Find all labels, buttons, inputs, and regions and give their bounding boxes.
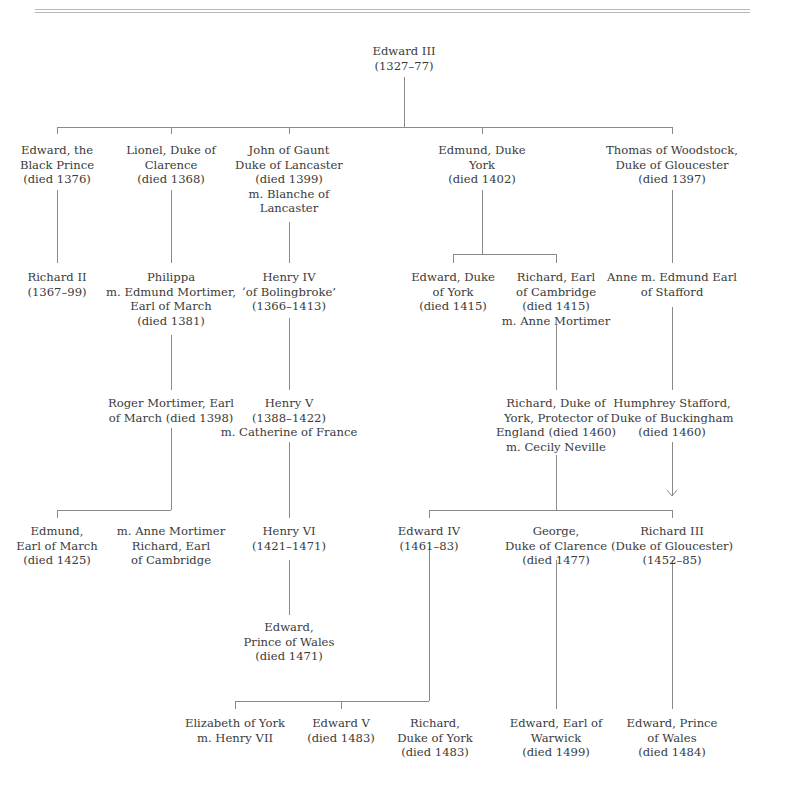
dates: (died 1499) — [510, 745, 603, 760]
dates: (died 1415) — [502, 299, 610, 314]
name: Richard, — [397, 716, 472, 731]
spouse: m. Edmund Mortimer, — [106, 285, 236, 300]
person-edward-iii: Edward III (1327–77) — [372, 44, 435, 73]
name: m. Anne Mortimer — [117, 524, 225, 539]
name: Richard II — [27, 270, 86, 285]
spouse: m. Anne Mortimer — [502, 314, 610, 329]
name: Thomas of Woodstock, — [606, 143, 738, 158]
name-cont: of March (died 1398) — [108, 411, 234, 426]
spouse: m. Catherine of France — [221, 425, 358, 440]
spouse: m. Blanche of — [235, 187, 343, 202]
name-cont: of Stafford — [607, 285, 737, 300]
name: Edward, — [244, 620, 335, 635]
spouse-cont: Lancaster — [235, 201, 343, 216]
dates: (died 1402) — [438, 172, 525, 187]
title: Earl of March — [16, 539, 98, 554]
name-cont: of York — [411, 285, 495, 300]
name-cont: York — [438, 158, 525, 173]
person-black-prince: Edward, the Black Prince (died 1376) — [20, 143, 94, 187]
person-george-clarence: George, Duke of Clarence (died 1477) — [505, 524, 607, 568]
title: (Duke of Gloucester) — [611, 539, 733, 554]
name-cont: of Cambridge — [502, 285, 610, 300]
dates: (died 1397) — [606, 172, 738, 187]
name: Henry IV — [242, 270, 336, 285]
person-henry-iv: Henry IV ‘of Bolingbroke’ (1366–1413) — [242, 270, 336, 314]
name: Edward, Prince — [627, 716, 718, 731]
name: Elizabeth of York — [185, 716, 285, 731]
dates: (1366–1413) — [242, 299, 336, 314]
dates: (1327–77) — [372, 59, 435, 74]
dates: (died 1376) — [20, 172, 94, 187]
person-richard-earl-cambridge: Richard, Earl of Cambridge (died 1415) m… — [502, 270, 610, 328]
person-john-of-gaunt: John of Gaunt Duke of Lancaster (died 13… — [235, 143, 343, 216]
dates: (died 1368) — [126, 172, 215, 187]
person-edward-duke-of-york: Edward, Duke of York (died 1415) — [411, 270, 495, 314]
name: George, — [505, 524, 607, 539]
spouse-cont: Earl of March — [106, 299, 236, 314]
name: John of Gaunt — [235, 143, 343, 158]
name: Richard, Duke of — [496, 396, 616, 411]
dates: (1388–1422) — [221, 411, 358, 426]
person-anne-stafford: Anne m. Edmund Earl of Stafford — [607, 270, 737, 299]
name: Edmund, Duke — [438, 143, 525, 158]
dates: (1461–83) — [398, 539, 460, 554]
person-roger-mortimer: Roger Mortimer, Earl of March (died 1398… — [108, 396, 234, 425]
person-richard-ii: Richard II (1367–99) — [27, 270, 86, 299]
dates: (died 1483) — [397, 745, 472, 760]
person-edward-earl-of-warwick: Edward, Earl of Warwick (died 1499) — [510, 716, 603, 760]
name: Humphrey Stafford, — [611, 396, 734, 411]
name-cont: Clarence — [126, 158, 215, 173]
name: Edward V — [307, 716, 375, 731]
dates: (died 1471) — [244, 649, 335, 664]
person-elizabeth-of-york: Elizabeth of York m. Henry VII — [185, 716, 285, 745]
name: Lionel, Duke of — [126, 143, 215, 158]
person-edmund-york: Edmund, Duke York (died 1402) — [438, 143, 525, 187]
person-richard-duke-of-york: Richard, Duke of York, Protector of Engl… — [496, 396, 616, 454]
name: Roger Mortimer, Earl — [108, 396, 234, 411]
dates: (died 1381) — [106, 314, 236, 329]
name: Anne m. Edmund Earl — [607, 270, 737, 285]
person-henry-v: Henry V (1388–1422) m. Catherine of Fran… — [221, 396, 358, 440]
person-thomas-woodstock: Thomas of Woodstock, Duke of Gloucester … — [606, 143, 738, 187]
title: Duke of Clarence — [505, 539, 607, 554]
name: Edward, Duke — [411, 270, 495, 285]
spouse: m. Cecily Neville — [496, 440, 616, 455]
name: Edward IV — [398, 524, 460, 539]
person-edward-prince-of-wales-1471: Edward, Prince of Wales (died 1471) — [244, 620, 335, 664]
name-cont: Black Prince — [20, 158, 94, 173]
name: Philippa — [106, 270, 236, 285]
name: Edmund, — [16, 524, 98, 539]
person-edward-iv: Edward IV (1461–83) — [398, 524, 460, 553]
title: Prince of Wales — [244, 635, 335, 650]
dates: (died 1425) — [16, 553, 98, 568]
name: Edward III — [372, 44, 435, 59]
dates: (1421–1471) — [252, 539, 326, 554]
person-richard-iii: Richard III (Duke of Gloucester) (1452–8… — [611, 524, 733, 568]
name-cont: of Wales — [627, 731, 718, 746]
person-humphrey-stafford: Humphrey Stafford, Duke of Buckingham (d… — [611, 396, 734, 440]
dates: (died 1477) — [505, 553, 607, 568]
person-anne-mortimer: m. Anne Mortimer Richard, Earl of Cambri… — [117, 524, 225, 568]
title: Duke of Buckingham — [611, 411, 734, 426]
name-cont: Warwick — [510, 731, 603, 746]
spouse-cont: of Cambridge — [117, 553, 225, 568]
person-philippa: Philippa m. Edmund Mortimer, Earl of Mar… — [106, 270, 236, 328]
person-edmund-earl-of-march: Edmund, Earl of March (died 1425) — [16, 524, 98, 568]
person-richard-duke-of-york-1483: Richard, Duke of York (died 1483) — [397, 716, 472, 760]
name: Henry V — [221, 396, 358, 411]
person-lionel: Lionel, Duke of Clarence (died 1368) — [126, 143, 215, 187]
dates: (died 1483) — [307, 731, 375, 746]
dates: (died 1484) — [627, 745, 718, 760]
dates: (1367–99) — [27, 285, 86, 300]
title: Duke of York — [397, 731, 472, 746]
dates: (1452–85) — [611, 553, 733, 568]
person-henry-vi: Henry VI (1421–1471) — [252, 524, 326, 553]
spouse: m. Henry VII — [185, 731, 285, 746]
name: Henry VI — [252, 524, 326, 539]
epithet: ‘of Bolingbroke’ — [242, 285, 336, 300]
title: Duke of Lancaster — [235, 158, 343, 173]
name: Edward, Earl of — [510, 716, 603, 731]
dates: (died 1399) — [235, 172, 343, 187]
spouse: Richard, Earl — [117, 539, 225, 554]
name: Richard, Earl — [502, 270, 610, 285]
